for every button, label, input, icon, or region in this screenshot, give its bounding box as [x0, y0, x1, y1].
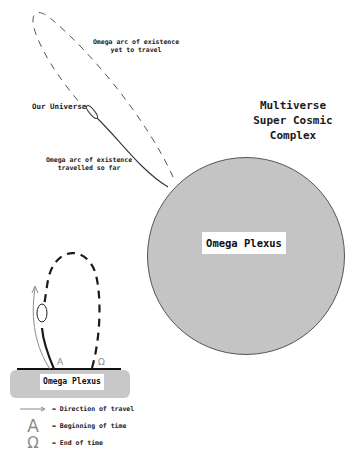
legend-text-beginning: = Beginning of time: [52, 422, 126, 430]
inset-dashed-loop: [44, 253, 99, 368]
inset-plexus-label: Omega Plexus: [40, 374, 104, 390]
legend-item-end: Ω = End of time: [18, 435, 103, 451]
label-travelled-line1: Omega arc of existence: [44, 156, 134, 164]
alpha-icon: A: [18, 418, 48, 434]
label-yet-to-travel-line2: yet to travel: [86, 46, 186, 54]
omega-plexus-label: Omega Plexus: [202, 232, 286, 254]
label-yet-to-travel: Omega arc of existence yet to travel: [86, 38, 186, 55]
omega-icon: Ω: [18, 435, 48, 451]
label-travelled-line2: travelled so far: [44, 164, 134, 172]
our-universe-ellipse: [85, 104, 99, 120]
inset-alpha-glyph: A: [57, 357, 63, 367]
label-our-universe: Our Universe: [32, 102, 86, 112]
solid-arc-travelled: [96, 117, 168, 187]
title-line2: Super Cosmic: [248, 113, 338, 128]
label-yet-to-travel-line1: Omega arc of existence: [86, 38, 186, 46]
legend-text-direction: = Direction of travel: [52, 405, 134, 413]
inset-omega-glyph: Ω: [98, 357, 105, 367]
legend-item-direction: = Direction of travel: [48, 401, 134, 417]
inset-universe-ellipse: [37, 304, 47, 322]
legend-text-end: = End of time: [52, 439, 103, 447]
omega-plexus-circle: [148, 158, 345, 355]
title-line1: Multiverse: [248, 98, 338, 113]
inset-solid-arc: [42, 328, 54, 369]
legend-item-beginning: A = Beginning of time: [18, 418, 126, 434]
label-travelled: Omega arc of existence travelled so far: [44, 156, 134, 173]
title-multiverse: Multiverse Super Cosmic Complex: [248, 98, 338, 143]
title-line3: Complex: [248, 128, 338, 143]
